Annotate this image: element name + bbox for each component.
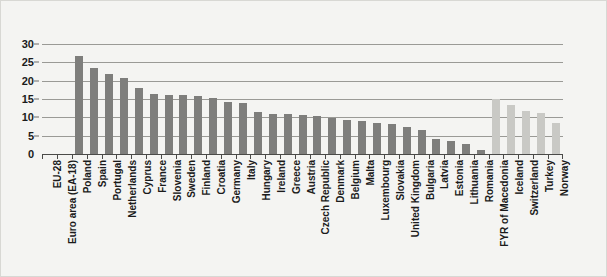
x-axis-label-text: Norway [560, 160, 570, 196]
x-axis-label-text: Switzerland [530, 160, 540, 216]
bar [462, 144, 470, 154]
x-axis-label-text: France [158, 160, 168, 193]
x-tick-mark [280, 154, 281, 159]
y-tick-label-30: 30 [22, 38, 34, 50]
x-axis-label-text: Belgium [351, 160, 361, 199]
x-tick-mark [161, 154, 162, 159]
bar [209, 98, 217, 154]
bar [447, 141, 455, 154]
x-axis-label-text: Netherlands [128, 160, 138, 218]
x-axis-label: Slovakia [396, 160, 406, 201]
y-tick-mark-20 [34, 80, 39, 81]
y-tick-mark-15 [34, 99, 39, 100]
x-axis-labels: EU-28Euro area (EA-18)PolandSpainPortuga… [42, 160, 563, 272]
x-tick-mark [414, 154, 415, 159]
x-tick-mark [191, 154, 192, 159]
x-axis-label: Netherlands [128, 160, 138, 218]
x-tick-mark [310, 154, 311, 159]
x-tick-mark [57, 154, 58, 159]
y-axis: 051015202530 [1, 44, 39, 154]
bar-series [42, 44, 563, 154]
x-axis-label-text: Spain [98, 160, 108, 187]
x-tick-mark [146, 154, 147, 159]
bar [403, 127, 411, 154]
bar [254, 112, 262, 154]
bar [75, 56, 83, 154]
bar [507, 105, 515, 154]
x-axis-label: Estonia [455, 160, 465, 196]
x-tick-mark [503, 154, 504, 159]
x-axis-label: Iceland [515, 160, 525, 194]
x-tick-mark [444, 154, 445, 159]
x-tick-mark [250, 154, 251, 159]
x-tick-mark [474, 154, 475, 159]
bar [313, 116, 321, 155]
x-tick-mark [340, 154, 341, 159]
y-tick-label-20: 20 [22, 75, 34, 87]
x-tick-mark [236, 154, 237, 159]
x-tick-mark [325, 154, 326, 159]
x-axis-label: Spain [98, 160, 108, 187]
x-tick-mark [562, 154, 563, 159]
x-axis-label-text: Croatia [217, 160, 227, 194]
bar [150, 94, 158, 154]
x-axis-label: Lithuania [470, 160, 480, 204]
x-tick-mark [206, 154, 207, 159]
x-axis-label-text: Denmark [336, 160, 346, 203]
x-tick-mark [548, 154, 549, 159]
x-axis-label: Malta [366, 160, 376, 186]
x-axis-label: Germany [232, 160, 242, 203]
x-axis-label: Ireland [277, 160, 287, 193]
x-axis-label-text: EU-28 [53, 160, 63, 188]
x-axis-label-text: Luxembourg [381, 160, 391, 221]
x-axis-label-text: Turkey [545, 160, 555, 192]
x-axis-label: United Kingdom [411, 160, 421, 237]
x-axis-label: EU-28 [53, 160, 63, 188]
x-axis-label-text: Finland [202, 160, 212, 196]
bar [135, 88, 143, 154]
x-axis-label: Croatia [217, 160, 227, 194]
x-axis-label: Slovenia [173, 160, 183, 201]
x-tick-mark [265, 154, 266, 159]
bar [552, 123, 560, 154]
x-tick-mark [489, 154, 490, 159]
y-tick-label-10: 10 [22, 111, 34, 123]
x-axis-label-text: Latvia [440, 160, 450, 189]
x-axis-label: Latvia [440, 160, 450, 189]
x-tick-mark [295, 154, 296, 159]
bar [90, 68, 98, 154]
x-tick-mark [518, 154, 519, 159]
x-axis-label-text: Austria [307, 160, 317, 194]
x-axis-label: Czech Republic [321, 160, 331, 234]
x-axis-label: Belgium [351, 160, 361, 199]
bar [165, 95, 173, 154]
bar [224, 102, 232, 154]
bar [373, 123, 381, 154]
x-axis-label-text: Cyprus [143, 160, 153, 194]
x-axis-label: Poland [83, 160, 93, 193]
x-axis-label: Luxembourg [381, 160, 391, 221]
x-axis-label: Sweden [187, 160, 197, 198]
x-axis-label: Bulgaria [426, 160, 436, 200]
y-tick-mark-25 [34, 62, 39, 63]
y-tick-mark-30 [34, 44, 39, 45]
x-axis-label: Switzerland [530, 160, 540, 216]
bar [522, 111, 530, 154]
x-axis-label: FYR of Macedonia [500, 160, 510, 247]
y-tick-mark-5 [34, 135, 39, 136]
x-tick-mark [459, 154, 460, 159]
bar [432, 139, 440, 154]
x-tick-mark [102, 154, 103, 159]
bar [418, 130, 426, 154]
x-tick-mark [355, 154, 356, 159]
y-tick-label-15: 15 [22, 93, 34, 105]
bar [299, 115, 307, 154]
x-axis-label-text: Hungary [262, 160, 272, 201]
x-tick-mark [42, 154, 43, 159]
x-axis-label-text: Iceland [515, 160, 525, 194]
bar [239, 103, 247, 154]
x-axis-label-text: Estonia [455, 160, 465, 196]
bar [179, 95, 187, 154]
x-axis-label: Norway [560, 160, 570, 196]
bar [269, 114, 277, 154]
